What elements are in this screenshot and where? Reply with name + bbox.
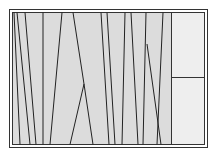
right-panel (172, 13, 205, 145)
line-diagram (0, 0, 218, 157)
